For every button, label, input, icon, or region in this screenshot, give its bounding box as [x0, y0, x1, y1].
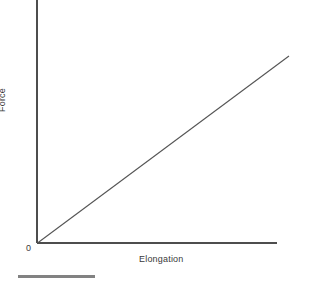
x-axis-label: Elongation	[139, 254, 184, 264]
data-line-force-elongation	[38, 56, 290, 243]
origin-tick-label: 0	[26, 243, 31, 253]
force-elongation-chart: Force Elongation 0	[0, 0, 313, 285]
y-axis-label: Force	[0, 100, 40, 112]
chart-plot-area	[0, 0, 313, 285]
bottom-rule-bar	[18, 275, 95, 278]
